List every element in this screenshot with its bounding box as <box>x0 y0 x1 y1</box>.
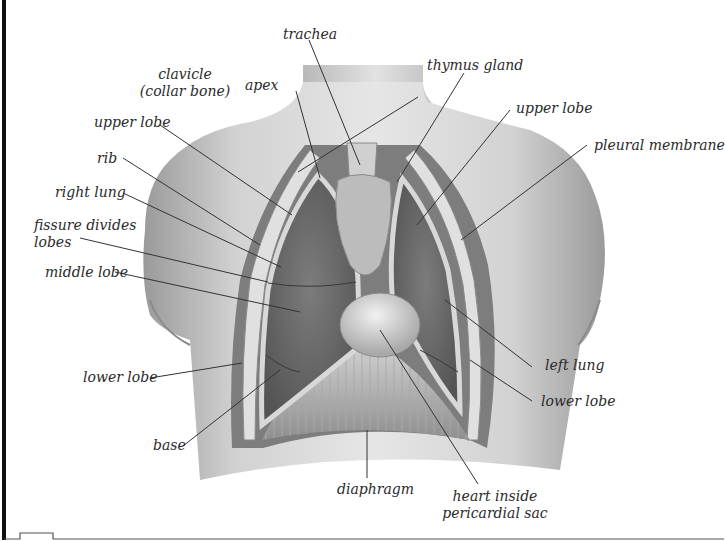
label-pericardial-sac: pericardial sac <box>430 505 560 521</box>
label-clavicle: clavicle <box>130 66 240 82</box>
label-pleural-membrane: pleural membrane <box>594 137 725 153</box>
label-heart-inside: heart inside <box>430 488 560 504</box>
label-left-lung: left lung <box>545 357 605 373</box>
label-upper-lobe-left: upper lobe <box>516 100 593 116</box>
label-thymus-gland: thymus gland <box>427 57 523 73</box>
label-apex: apex <box>245 77 279 93</box>
label-rib: rib <box>97 150 117 166</box>
label-upper-lobe-right: upper lobe <box>94 114 171 130</box>
label-lower-lobe-left: lower lobe <box>541 393 615 409</box>
label-fissure-divides: fissure divides <box>34 217 136 233</box>
label-right-lung: right lung <box>55 184 126 200</box>
label-collar-bone: (collar bone) <box>130 83 240 99</box>
label-base: base <box>153 437 186 453</box>
label-trachea: trachea <box>276 26 344 42</box>
heart-shape <box>340 293 420 357</box>
label-fissure-lobes: lobes <box>34 234 71 250</box>
label-middle-lobe: middle lobe <box>45 264 128 280</box>
label-lower-lobe-right: lower lobe <box>83 369 157 385</box>
label-diaphragm: diaphragm <box>337 481 414 497</box>
